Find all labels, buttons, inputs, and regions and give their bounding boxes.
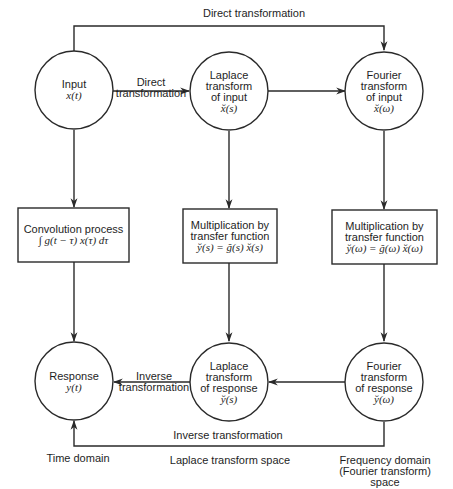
node-mult-fourier-line1: Multiplication by [345,221,423,232]
node-laplace-response: Laplace transform of response y̆(s) [190,359,268,407]
node-mult-laplace-line1: Multiplication by [191,220,269,231]
node-mult-fourier-line2: transfer function [345,232,424,243]
node-response-math: y(t) [66,382,81,393]
edge-label-direct: Direct transformation [115,77,187,99]
column-label-time: Time domain [38,453,118,464]
node-laplace-response-math: y̆(s) [221,394,238,405]
edge-label-inverse-bottom: Inverse transformation [168,430,288,441]
node-convolution: Convolution process ∫ g(t − τ) x(τ) dτ [18,208,129,262]
top-edge-label: Direct transformation [174,8,334,19]
edge-direct-top [74,26,384,51]
node-laplace-input-math: x̆(s) [221,103,238,114]
edge-label-inverse-line2: transformation [118,382,190,393]
node-fourier-response-math: y̆(ω) [374,394,394,405]
node-mult-fourier: Multiplication by transfer function y̆(ω… [332,210,437,264]
node-mult-laplace-line2: transfer function [191,231,270,242]
column-label-frequency-line3: space [335,477,435,488]
node-laplace-input: Laplace transform of input x̆(s) [190,68,268,116]
node-convolution-math: ∫ g(t − τ) x(τ) dτ [39,235,109,246]
node-input-math: x(t) [66,90,81,101]
node-mult-fourier-math: y̆(ω) = ğ(ω) x̆(ω) [346,243,422,254]
node-response: Response y(t) [35,362,113,402]
column-label-frequency: Frequency domain (Fourier transform) spa… [335,455,435,488]
node-mult-laplace: Multiplication by transfer function y̆(s… [183,209,277,263]
node-fourier-input-math: x̆(ω) [374,103,394,114]
node-mult-laplace-math: y̆(s) = ğ(s) x̆(s) [197,242,263,253]
node-fourier-response: Fourier transform of response y̆(ω) [345,359,423,407]
node-input: Input x(t) [35,70,113,110]
edge-label-inverse: Inverse transformation [118,371,190,393]
node-fourier-input: Fourier transform of input x̆(ω) [345,68,423,116]
edge-label-direct-line2: transformation [115,88,187,99]
column-label-laplace: Laplace transform space [165,455,295,466]
